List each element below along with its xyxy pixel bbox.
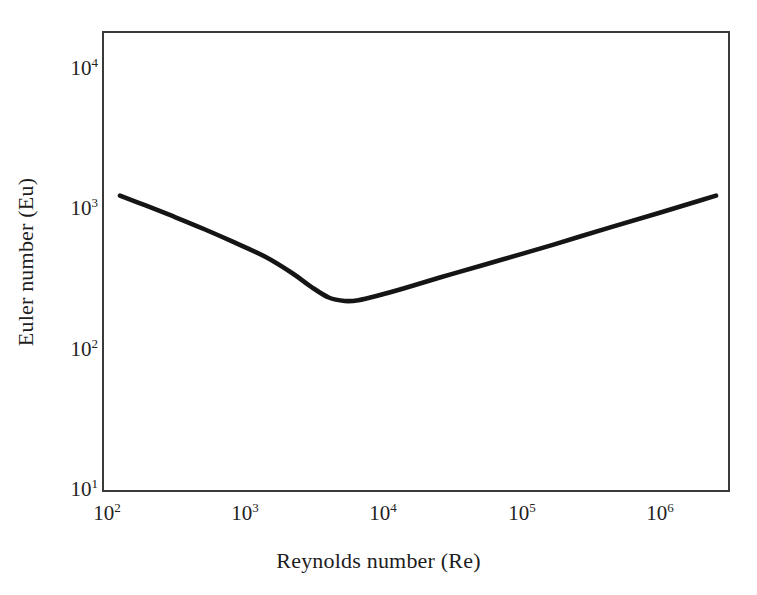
series-line-euler-number bbox=[120, 196, 716, 302]
x-tick-label-1000: 103 bbox=[231, 503, 259, 524]
y-tick-label-100: 102 bbox=[58, 339, 98, 360]
plot-area bbox=[102, 31, 730, 492]
x-tick-label-10000: 104 bbox=[369, 503, 397, 524]
y-tick-label-1000: 103 bbox=[58, 198, 98, 219]
x-tick-label-100000: 105 bbox=[508, 503, 536, 524]
x-tick-label-1000000: 106 bbox=[646, 503, 674, 524]
x-tick-label-100: 102 bbox=[93, 503, 121, 524]
euler-number-curve bbox=[104, 33, 728, 490]
y-axis-title: Euler number (Eu) bbox=[13, 177, 39, 345]
y-tick-label-10: 101 bbox=[58, 479, 98, 500]
figure-canvas: 104 103 102 101 102 103 104 105 106 Reyn… bbox=[0, 0, 757, 595]
y-tick-label-10000: 104 bbox=[58, 58, 98, 79]
x-axis-title: Reynolds number (Re) bbox=[0, 548, 757, 574]
y-axis-title-container: Euler number (Eu) bbox=[9, 31, 43, 492]
